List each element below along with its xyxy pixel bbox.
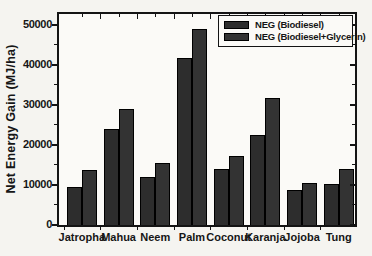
x-boundary-tick-bottom [247,227,248,230]
bar-palm-biodiesel [177,58,192,225]
x-minor-tick-top [192,14,193,17]
x-boundary-tick-bottom [174,227,175,230]
x-boundary-tick-bottom [100,227,101,230]
legend-swatch-biodiesel-glycerin [224,33,249,41]
bar-tung-biodiesel [324,184,339,225]
legend-swatch-biodiesel [224,21,249,29]
y-minor-tick-left [54,84,57,85]
y-tick-label: 50000 [0,18,52,30]
x-minor-tick-top [82,14,83,17]
y-tick-label: 40000 [0,58,52,70]
bar-karanja-biodiesel-glycerin [265,98,280,225]
y-minor-tick-right [352,164,355,165]
y-major-tick-left [52,104,57,106]
x-category-label-jatropha: Jatropha [59,231,105,243]
y-tick-label: 10000 [0,178,52,190]
bar-palm-biodiesel-glycerin [192,29,207,225]
y-major-tick-left [52,24,57,26]
x-category-label-tung: Tung [326,231,352,243]
x-category-label-neem: Neem [140,231,170,243]
legend-label-biodiesel-glycerin: NEG (Biodiesel+Glycerin) [255,31,366,42]
x-category-label-palm: Palm [179,231,205,243]
x-category-label-mahua: Mahua [101,231,136,243]
bar-jojoba-biodiesel-glycerin [302,183,317,225]
legend-item-biodiesel: NEG (Biodiesel) [219,19,352,30]
y-tick-label: 0 [0,218,52,230]
legend: NEG (Biodiesel) NEG (Biodiesel+Glycerin) [218,15,353,47]
y-major-tick-right [350,144,355,146]
y-major-tick-left [52,144,57,146]
x-category-label-karanja: Karanja [245,231,285,243]
x-boundary-tick-bottom [210,227,211,230]
bar-neem-biodiesel [140,177,155,225]
figure: Net Energy Gain (MJ/ha) NEG (Biodiesel) … [0,0,372,256]
y-major-tick-right [350,184,355,186]
x-minor-tick-top [155,14,156,17]
x-boundary-tick-bottom [320,227,321,230]
y-minor-tick-right [352,124,355,125]
bar-jatropha-biodiesel-glycerin [82,170,97,225]
bar-karanja-biodiesel [250,135,265,225]
bar-tung-biodiesel-glycerin [339,169,354,225]
x-minor-tick-top [119,14,120,17]
x-boundary-tick-bottom [137,227,138,230]
x-major-tick-top [210,14,211,19]
y-major-tick-right [350,104,355,106]
y-minor-tick-right [352,204,355,205]
y-major-tick-right [350,64,355,66]
x-boundary-tick-bottom [64,227,65,230]
x-major-tick-top [137,14,138,19]
y-minor-tick-left [54,164,57,165]
x-major-tick-top [100,14,101,19]
y-major-tick-left [52,184,57,186]
bar-jatropha-biodiesel [67,187,82,225]
y-major-tick-left [52,224,57,226]
bar-coconut-biodiesel [214,169,229,225]
bar-mahua-biodiesel-glycerin [119,109,134,226]
x-boundary-tick-bottom [284,227,285,230]
legend-item-biodiesel-glycerin: NEG (Biodiesel+Glycerin) [219,31,352,42]
y-tick-label: 20000 [0,138,52,150]
y-major-tick-left [52,64,57,66]
x-category-label-jojoba: Jojoba [284,231,319,243]
legend-label-biodiesel: NEG (Biodiesel) [255,19,324,30]
y-minor-tick-left [54,204,57,205]
bar-coconut-biodiesel-glycerin [229,156,244,225]
x-major-tick-top [174,14,175,19]
y-tick-label: 30000 [0,98,52,110]
bar-mahua-biodiesel [104,129,119,225]
y-minor-tick-left [54,44,57,45]
bar-neem-biodiesel-glycerin [155,163,170,225]
y-minor-tick-right [352,84,355,85]
y-minor-tick-left [54,124,57,125]
y-major-tick-right [350,224,355,226]
bar-jojoba-biodiesel [287,190,302,225]
